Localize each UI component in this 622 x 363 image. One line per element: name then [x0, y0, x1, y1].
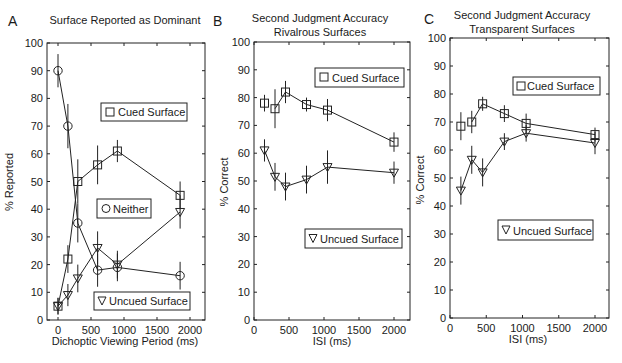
y-tick-label: 60	[31, 148, 43, 160]
y-tick-label: 70	[31, 120, 43, 132]
chart-title-line2: Rivalrous Surfaces	[274, 26, 367, 38]
svg-text:Uncued Surface: Uncued Surface	[320, 233, 399, 245]
svg-text:Cued Surface: Cued Surface	[118, 106, 185, 118]
chart-title-line1: Second Judgment Accuracy	[454, 9, 591, 21]
panel-b: B Second Judgment Accuracy Rivalrous Sur…	[213, 12, 410, 347]
series-line	[472, 104, 595, 135]
y-tick-label: 50	[31, 176, 43, 188]
legend-item-cued: Cued Surface	[315, 68, 404, 87]
y-tick-label: 20	[31, 259, 43, 271]
series-uncued-surface	[456, 125, 599, 205]
y-tick-label: 30	[31, 231, 43, 243]
y-tick-label: 50	[238, 175, 250, 187]
y-tick-label: 60	[434, 144, 446, 156]
panel-letter: C	[424, 11, 434, 27]
legend-item-cued: Cued Surface	[101, 103, 187, 121]
series-line	[58, 151, 180, 306]
x-tick-label: 0	[55, 324, 61, 336]
y-tick-label: 90	[434, 60, 446, 72]
y-tick-label: 60	[238, 147, 250, 159]
panel-letter: B	[213, 13, 222, 29]
legend: Cued Surface Neither Uncued Surface	[94, 103, 190, 310]
legend-item-neither: Neither	[97, 199, 151, 218]
x-tick-label: 2000	[178, 324, 202, 336]
x-tick-label: 0	[251, 324, 257, 336]
x-axis-label: ISI (ms)	[313, 335, 352, 347]
y-axis-label: % Correct	[414, 156, 426, 205]
y-tick-label: 0	[440, 312, 446, 324]
y-tick-label: 40	[31, 203, 43, 215]
y-tick-label: 0	[244, 314, 250, 326]
y-tick-label: 20	[434, 256, 446, 268]
panel-letter: A	[8, 13, 18, 29]
y-tick-label: 70	[434, 116, 446, 128]
y-axis-label: % Reported	[3, 153, 15, 211]
y-tick-label: 0	[37, 314, 43, 326]
legend: Cued Surface Uncued Surface	[498, 77, 600, 240]
x-tick-label: 1500	[347, 324, 371, 336]
panel-c: C Second Judgment Accuracy Transparent S…	[414, 9, 609, 345]
series-line	[461, 133, 595, 190]
x-tick-label: 1000	[312, 324, 336, 336]
svg-text:Cued Surface: Cued Surface	[332, 72, 399, 84]
y-tick-label: 20	[238, 258, 250, 270]
series-uncued-surface	[260, 139, 399, 200]
y-tick-label: 70	[238, 119, 250, 131]
chart-title-line2: Transparent Surfaces	[469, 23, 575, 35]
x-tick-label: 500	[477, 322, 495, 334]
y-tick-label: 30	[238, 231, 250, 243]
x-tick-label: 0	[447, 322, 453, 334]
y-tick-label: 50	[434, 172, 446, 184]
x-axis-label: ISI (ms)	[509, 333, 548, 345]
series-neither	[54, 54, 185, 289]
svg-text:Uncued Surface: Uncued Surface	[109, 295, 188, 307]
y-tick-label: 10	[238, 286, 250, 298]
y-tick-label: 10	[434, 284, 446, 296]
axes-frame	[47, 43, 205, 320]
y-tick-label: 80	[238, 92, 250, 104]
x-tick-label: 500	[82, 324, 100, 336]
x-tick-label: 2000	[382, 324, 406, 336]
y-tick-label: 30	[434, 228, 446, 240]
legend-item-uncued: Uncued Surface	[94, 292, 190, 310]
legend-item-cued: Cued Surface	[513, 77, 600, 95]
x-axis-label: Dichoptic Viewing Period (ms)	[52, 335, 199, 347]
legend-item-uncued: Uncued Surface	[498, 220, 593, 240]
y-tick-label: 80	[434, 88, 446, 100]
plot-area: 01020304050607080901000500100015002000	[25, 37, 205, 336]
x-tick-label: 1500	[547, 322, 571, 334]
y-tick-label: 90	[238, 64, 250, 76]
x-tick-label: 1000	[112, 324, 136, 336]
y-tick-label: 40	[238, 203, 250, 215]
series-line	[58, 71, 180, 276]
chart-title-line1: Second Judgment Accuracy	[252, 12, 389, 24]
y-axis-label: % Correct	[218, 158, 230, 207]
x-tick-label: 500	[280, 324, 298, 336]
legend-item-uncued: Uncued Surface	[305, 229, 402, 248]
svg-text:Cued Surface: Cued Surface	[527, 80, 594, 92]
legend: Cued Surface Uncued Surface	[305, 68, 404, 248]
svg-text:Uncued Surface: Uncued Surface	[513, 225, 592, 237]
figure: A Surface Reported as Dominant Dichoptic…	[0, 0, 622, 363]
y-tick-label: 90	[31, 65, 43, 77]
y-tick-label: 10	[31, 286, 43, 298]
y-tick-label: 100	[232, 36, 250, 48]
chart-title: Surface Reported as Dominant	[49, 14, 200, 26]
y-tick-label: 80	[31, 92, 43, 104]
series-cued-surface	[54, 140, 184, 315]
series-line	[275, 92, 394, 142]
svg-text:Neither: Neither	[113, 203, 149, 215]
x-tick-label: 1000	[510, 322, 534, 334]
series-cued-surface	[261, 81, 399, 152]
x-tick-label: 2000	[583, 322, 607, 334]
panel-a: A Surface Reported as Dominant Dichoptic…	[3, 13, 205, 347]
y-tick-label: 100	[25, 37, 43, 49]
x-tick-label: 1500	[145, 324, 169, 336]
y-tick-label: 100	[428, 32, 446, 44]
y-tick-label: 40	[434, 200, 446, 212]
